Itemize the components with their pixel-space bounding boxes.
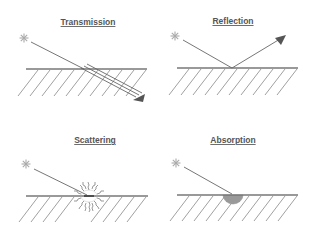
panel-title-scattering: Scattering [74,135,116,145]
surface-hatching [19,197,146,222]
panel-title-absorption: Absorption [210,135,255,145]
light-interaction-diagram: Transmission Reflection [0,0,315,238]
transmitted-rays [81,64,145,102]
incident-ray [184,167,232,194]
incident-ray [183,40,232,68]
panel-reflection: Reflection [169,16,298,95]
reflected-ray [232,39,280,68]
absorbed-spot [223,195,243,204]
panel-scattering: Scattering [19,135,148,222]
light-source-star-icon [22,160,31,169]
arrowhead-icon [133,94,145,102]
scatter-burst-icon [74,182,104,212]
arrowhead-icon [275,35,286,45]
surface-hatching [169,69,297,95]
panel-transmission: Transmission [18,17,147,102]
panel-title-reflection: Reflection [212,16,253,26]
panel-title-transmission: Transmission [61,17,116,27]
light-source-star-icon [171,32,180,41]
light-source-star-icon [172,159,181,168]
panel-absorption: Absorption [170,135,298,221]
incident-ray [31,42,84,69]
incident-ray [34,169,87,195]
light-source-star-icon [20,34,29,43]
